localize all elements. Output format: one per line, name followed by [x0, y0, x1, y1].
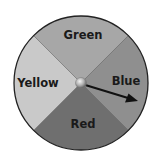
label-blue: Blue [112, 74, 141, 88]
spinner-hub [76, 78, 87, 89]
label-yellow: Yellow [16, 76, 59, 90]
label-red: Red [71, 117, 96, 131]
spinner-diagram: Green Blue Red Yellow [0, 0, 162, 168]
label-green: Green [64, 28, 103, 42]
